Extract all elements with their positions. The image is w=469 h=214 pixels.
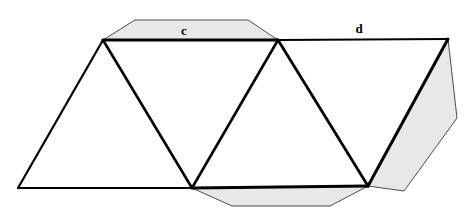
edge-d: [278, 39, 448, 40]
top-glue-tab: [103, 20, 278, 40]
geometry-net-figure: c d: [0, 0, 469, 214]
figure-canvas: c d: [0, 0, 469, 214]
label-c: c: [181, 23, 187, 38]
label-d: d: [355, 21, 363, 36]
edge-base-right: [192, 186, 368, 188]
